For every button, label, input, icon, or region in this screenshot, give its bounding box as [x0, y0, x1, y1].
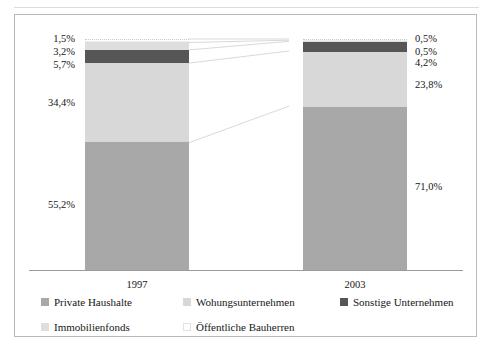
category-label-2003: 2003	[303, 279, 407, 290]
bar-segment-wohungsunternehmen-2003[interactable]	[303, 52, 407, 107]
chart-legend: Private Haushalte Wohungsunternehmen Son…	[15, 296, 478, 346]
legend-item-wohungsunternehmen[interactable]: Wohungsunternehmen	[175, 296, 340, 308]
legend-label-immobilienfonds: Immobilienfonds	[54, 321, 130, 333]
chart-frame: 1,5% 3,2% 5,7% 34,4% 55,2% 0,5% 0,5% 4,2…	[14, 14, 477, 337]
legend-label-private-haushalte: Private Haushalte	[54, 296, 132, 308]
legend-swatch-icon-private-haushalte	[41, 298, 49, 306]
legend-swatch-icon-wohungsunternehmen	[183, 298, 191, 306]
bar-segment-sonstige-unternehmen-2003[interactable]	[303, 42, 407, 52]
value-label-private-haushalte-2003: 71,0%	[415, 181, 442, 192]
legend-label-sonstige-unternehmen: Sonstige Unternehmen	[353, 296, 454, 308]
value-label-wohungsunternehmen-2003: 23,8%	[415, 79, 442, 90]
value-label-private-haushalte-1997: 55,2%	[15, 199, 75, 210]
legend-swatch-icon-oeffentliche-bauherren	[183, 323, 191, 331]
value-label-immobilienfonds-2003: 0,5%	[415, 46, 437, 57]
top-rule-divider	[14, 7, 479, 8]
legend-row-2: Immobilienfonds Öffentliche Bauherren	[15, 321, 478, 346]
bar-segment-sonstige-unternehmen-1997[interactable]	[85, 50, 189, 63]
bar-segment-wohungsunternehmen-1997[interactable]	[85, 63, 189, 142]
value-label-immobilienfonds-1997: 3,2%	[15, 46, 75, 57]
legend-label-wohungsunternehmen: Wohungsunternehmen	[196, 296, 295, 308]
value-label-oeffentliche-bauherren-2003: 0,5%	[415, 33, 437, 44]
legend-item-oeffentliche-bauherren[interactable]: Öffentliche Bauherren	[175, 321, 340, 333]
legend-row-1: Private Haushalte Wohungsunternehmen Son…	[15, 296, 478, 321]
legend-item-immobilienfonds[interactable]: Immobilienfonds	[15, 321, 175, 333]
stacked-bar-2003[interactable]	[303, 39, 407, 270]
category-label-1997: 1997	[85, 279, 189, 290]
chart-screenshot: 1,5% 3,2% 5,7% 34,4% 55,2% 0,5% 0,5% 4,2…	[0, 0, 493, 358]
bar-segment-immobilienfonds-1997[interactable]	[85, 42, 189, 49]
legend-item-private-haushalte[interactable]: Private Haushalte	[15, 296, 175, 308]
value-label-oeffentliche-bauherren-1997: 1,5%	[15, 33, 75, 44]
stacked-bar-1997[interactable]	[85, 39, 189, 270]
legend-swatch-icon-immobilienfonds	[41, 323, 49, 331]
bar-segment-private-haushalte-2003[interactable]	[303, 107, 407, 270]
plot-area: 1,5% 3,2% 5,7% 34,4% 55,2% 0,5% 0,5% 4,2…	[15, 15, 478, 338]
legend-label-oeffentliche-bauherren: Öffentliche Bauherren	[196, 321, 294, 333]
legend-item-sonstige-unternehmen[interactable]: Sonstige Unternehmen	[340, 296, 478, 308]
category-axis-line	[29, 270, 463, 271]
value-label-sonstige-unternehmen-1997: 5,7%	[15, 59, 75, 70]
value-label-wohungsunternehmen-1997: 34,4%	[15, 97, 75, 108]
legend-swatch-icon-sonstige-unternehmen	[340, 298, 348, 306]
bar-segment-private-haushalte-1997[interactable]	[85, 142, 189, 270]
value-label-sonstige-unternehmen-2003: 4,2%	[415, 57, 437, 68]
